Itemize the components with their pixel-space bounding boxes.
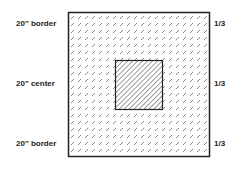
right-label-bottom: 1/3 <box>214 139 225 148</box>
center-area-hatched <box>116 61 163 110</box>
left-label-top: 20" border <box>16 19 56 28</box>
right-label-center: 1/3 <box>214 79 225 88</box>
right-label-top: 1/3 <box>214 19 225 28</box>
left-label-center: 20" center <box>16 79 55 88</box>
left-label-bottom: 20" border <box>16 139 56 148</box>
